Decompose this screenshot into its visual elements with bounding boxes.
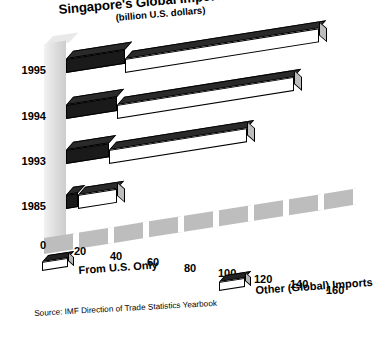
- x-axis-tick-20: 20: [74, 245, 86, 257]
- bar-end-cap: [319, 21, 327, 42]
- x-axis-tick-0: 0: [40, 239, 46, 251]
- bar-1985-from-us: [66, 193, 78, 209]
- source-note: Source: IMF Direction of Trade Statistic…: [34, 299, 217, 318]
- bar-front-face: [66, 193, 78, 209]
- axis-wall: [44, 41, 66, 240]
- legend-label-other-global: Other (Global) Imports: [255, 276, 373, 296]
- chart-canvas: Singapore's Global Imports and Imports f…: [0, 0, 379, 340]
- axis-tile: [149, 216, 181, 237]
- x-axis-tick-80: 80: [184, 262, 196, 274]
- axis-tile: [289, 194, 321, 215]
- bar-1985-other-global: [78, 189, 117, 209]
- bar-1993-other-global: [109, 128, 247, 164]
- y-axis-label-1995: 1995: [2, 64, 46, 76]
- axis-tile: [254, 200, 286, 221]
- legend-swatch-from-us: [42, 258, 68, 271]
- bar-1995-from-us: [66, 50, 125, 73]
- legend-swatch-other-global: [219, 278, 245, 291]
- axis-tile: [114, 222, 146, 243]
- bar-1993-from-us: [66, 143, 109, 164]
- bar-end-cap: [294, 70, 302, 91]
- axis-tile: [184, 211, 216, 232]
- plot-area: 1995 1994 1993 1985: [0, 0, 379, 340]
- bar-1995-other-global: [125, 28, 319, 73]
- bar-1994-other-global: [117, 77, 294, 119]
- y-axis-label-1994: 1994: [2, 110, 46, 122]
- y-axis-label-1985: 1985: [2, 200, 46, 212]
- legend-label-from-us: From U.S. Only: [78, 258, 158, 276]
- bar-end-cap: [247, 121, 255, 142]
- axis-tile: [219, 205, 251, 226]
- legend-swatch-cap: [245, 272, 251, 286]
- y-axis-label-1993: 1993: [2, 155, 46, 167]
- bar-end-cap: [117, 182, 125, 203]
- bar-1994-from-us: [66, 97, 117, 119]
- axis-tile: [324, 189, 356, 210]
